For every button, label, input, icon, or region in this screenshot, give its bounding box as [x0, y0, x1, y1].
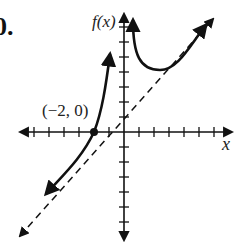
y-axis-label: f(x)	[92, 12, 116, 32]
point-label: (−2, 0)	[42, 101, 88, 121]
x-intercept-point	[90, 128, 98, 136]
curve-right-branch	[133, 20, 206, 70]
function-graph	[0, 0, 246, 243]
x-axis-label: x	[222, 134, 230, 155]
curve-left-branch	[46, 54, 110, 194]
